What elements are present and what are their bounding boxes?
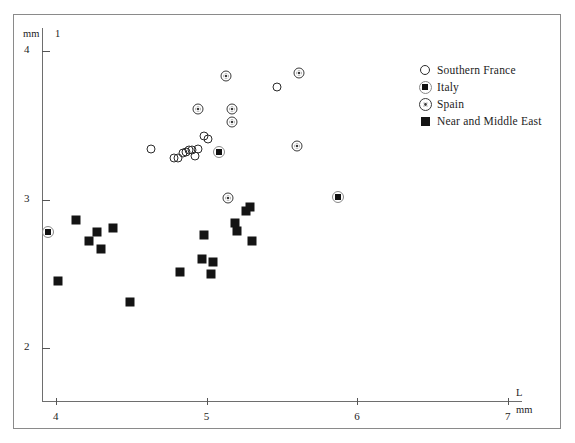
open-circle-icon xyxy=(418,63,432,77)
square-in-circle-icon xyxy=(418,80,432,94)
y-tick-mark xyxy=(42,51,50,52)
data-point xyxy=(193,145,202,154)
circle-in-circle-icon xyxy=(418,97,432,111)
legend-item-nme[interactable]: Near and Middle East xyxy=(418,113,568,129)
legend-item-label: Southern France xyxy=(437,64,516,76)
data-point xyxy=(42,226,54,238)
legend-item-sp[interactable]: Spain xyxy=(418,96,568,112)
data-point xyxy=(227,103,238,114)
filled-square-icon xyxy=(418,114,432,128)
data-point xyxy=(85,237,94,246)
x-tick-mark xyxy=(508,398,509,405)
data-point xyxy=(232,226,241,235)
data-point xyxy=(222,193,233,204)
y-axis-name: 1 xyxy=(55,28,60,39)
x-tick-mark xyxy=(207,398,208,405)
y-tick-label: 3 xyxy=(24,192,30,204)
data-point xyxy=(198,254,207,263)
legend-item-label: Near and Middle East xyxy=(437,115,542,127)
x-unit-label: mm xyxy=(516,404,532,415)
x-tick-mark xyxy=(56,398,57,405)
data-point xyxy=(97,244,106,253)
y-tick-label: 4 xyxy=(24,43,30,55)
data-point xyxy=(92,228,101,237)
data-point xyxy=(273,82,282,91)
legend-item-sf[interactable]: Southern France xyxy=(418,62,568,78)
legend-item-label: Italy xyxy=(437,81,459,93)
y-tick-label: 2 xyxy=(24,340,30,352)
data-point xyxy=(192,103,203,114)
data-point xyxy=(204,134,213,143)
data-point xyxy=(227,117,238,128)
legend-item-it[interactable]: Italy xyxy=(418,79,568,95)
y-tick-mark xyxy=(42,200,50,201)
x-tick-label: 6 xyxy=(354,410,360,422)
data-point xyxy=(292,141,303,152)
legend: Southern FranceItalySpainNear and Middle… xyxy=(418,62,568,130)
data-point xyxy=(332,191,344,203)
data-point xyxy=(221,71,232,82)
data-point xyxy=(208,257,217,266)
x-axis-line xyxy=(42,401,522,402)
x-tick-label: 7 xyxy=(505,410,511,422)
data-point xyxy=(53,277,62,286)
data-point xyxy=(125,297,134,306)
data-point xyxy=(175,268,184,277)
data-point xyxy=(71,216,80,225)
y-tick-mark xyxy=(42,348,50,349)
data-point xyxy=(213,146,225,158)
data-point xyxy=(247,237,256,246)
x-tick-label: 4 xyxy=(53,410,59,422)
data-point xyxy=(146,145,155,154)
data-point xyxy=(293,68,304,79)
data-point xyxy=(109,223,118,232)
y-unit-label: mm xyxy=(23,28,39,39)
legend-item-label: Spain xyxy=(437,98,464,110)
figure-container: mm 1 L mm 2344567 Southern FranceItalySp… xyxy=(0,0,575,443)
data-point xyxy=(246,202,255,211)
x-axis-name: L xyxy=(516,387,522,398)
y-axis-line xyxy=(42,28,43,402)
data-point xyxy=(207,269,216,278)
data-point xyxy=(199,231,208,240)
x-tick-mark xyxy=(357,398,358,405)
x-tick-label: 5 xyxy=(204,410,210,422)
